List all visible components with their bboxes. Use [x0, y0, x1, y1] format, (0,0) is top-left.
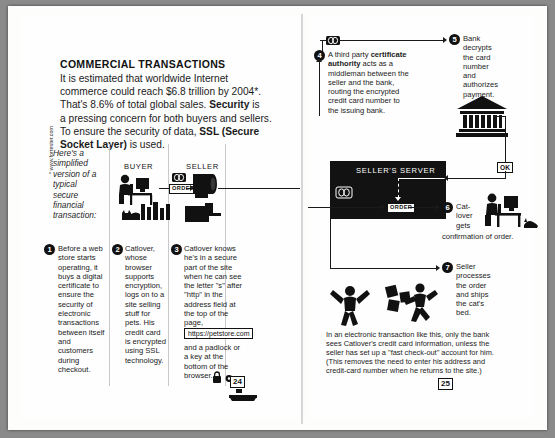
step-number-2: 2 — [112, 244, 123, 255]
dashed-connector-top — [398, 178, 450, 179]
footnote-line-1: In an electronic transaction like this, … — [326, 330, 489, 339]
intro-line-4: a pressing concern for both buyers and s… — [60, 113, 272, 124]
arrowhead-to-seller — [190, 185, 194, 191]
column-rule-2 — [168, 144, 169, 386]
connector-ca-left-stub — [320, 40, 327, 41]
step-4-text-a: A third party — [328, 50, 371, 59]
step-4-text-b: acts as a middleman between the seller a… — [328, 59, 409, 114]
connector-server-down-to-step7 — [330, 219, 331, 269]
footnote-line-4: (This removes the need to enter his addr… — [326, 357, 485, 366]
step-text-1: Before a web store starts operating, it … — [58, 244, 106, 374]
page-number-left: 24 — [230, 376, 245, 388]
arrowhead-to-bank — [443, 37, 447, 43]
connector-into-server-order — [308, 207, 382, 208]
footnote-line-5: credit-card number when he returns to th… — [326, 366, 482, 375]
address-bar-url[interactable]: https://petstore.com — [184, 328, 253, 339]
page-gutter — [301, 14, 303, 424]
step-number-6: 6 — [442, 202, 453, 213]
connector-bank-stub — [494, 116, 506, 117]
connector-to-step7 — [330, 268, 438, 269]
connector-ca-to-bank — [340, 40, 444, 41]
arrowhead-to-step6 — [436, 204, 440, 210]
connector-buyer-to-order — [159, 188, 169, 189]
step-number-3: 3 — [171, 244, 182, 255]
connector-server-to-ca — [319, 62, 320, 116]
running-courier-icon — [386, 282, 440, 326]
cat-and-fence-icon — [120, 202, 172, 222]
arrowhead-into-order — [381, 204, 385, 210]
intro-line-3b: is — [249, 99, 259, 110]
padlock-icon — [212, 371, 222, 383]
cd-icon-right — [326, 36, 340, 45]
page-number-right: 25 — [438, 378, 453, 390]
intro-term-ssl-1: SSL (Secure — [199, 126, 259, 137]
step-text-5: Bank decrypts the card number and author… — [463, 34, 503, 99]
connector-order-to-step6 — [408, 207, 438, 208]
intro-paragraph: It is estimated that worldwide Internet … — [60, 72, 296, 151]
step-text-3a: Catlover knows he's in a secure part of … — [184, 244, 246, 328]
arrowhead-to-step7 — [436, 265, 440, 271]
arrowhead-dashed-to-order — [395, 197, 401, 201]
diagram-caption: Here's a simplified version of a typical… — [53, 148, 103, 221]
intro-line-1: It is estimated that worldwide Internet — [60, 73, 228, 84]
monitor-base-icon — [229, 389, 257, 401]
step-number-1: 1 — [44, 244, 55, 255]
column-rule-1 — [109, 144, 110, 386]
intro-line-3a: That's 8.6% of total global sales. — [60, 99, 209, 110]
connector-seller-to-right-page — [218, 188, 300, 189]
step-text-2: Catlover, whose browser supports encrypt… — [125, 244, 167, 365]
arrowhead-ok-to-server — [444, 175, 448, 181]
intro-line-6b: is used. — [127, 139, 165, 150]
step-text-6-cont: confirmation of order. — [442, 232, 538, 241]
footnote-line-3: seller has set up a "fast check-out" acc… — [326, 348, 494, 357]
seller-label: SELLER — [186, 162, 219, 171]
arrowhead-to-ca — [316, 58, 322, 62]
sellers-server-label: SELLER'S SERVER — [356, 166, 435, 175]
celebrating-figure-icon — [330, 282, 370, 326]
footnote-paragraph: In an electronic transaction like this, … — [326, 330, 538, 375]
screenshot-root: * www.forrester.com COMMERCIAL TRANSACTI… — [0, 0, 555, 438]
step-text-7: Seller processes the order and ships the… — [456, 262, 500, 318]
connector-bank-to-ok — [505, 116, 506, 162]
footnote-line-2: sees Catlover's credit card information,… — [326, 339, 489, 348]
bank-building-icon — [456, 96, 508, 138]
step-number-5: 5 — [449, 34, 460, 45]
connector-ok-down — [505, 171, 506, 179]
dashed-connector-to-order — [398, 178, 399, 198]
buyer-label: BUYER — [124, 162, 153, 171]
catlover-desk-icon — [480, 192, 538, 232]
cd-icon-left — [172, 173, 186, 182]
seller-shape-icon — [183, 202, 223, 224]
connector-ok-to-server — [446, 178, 506, 179]
intro-line-5a: To ensure the security of data, — [60, 126, 199, 137]
cd-icon-server — [336, 187, 352, 198]
intro-term-security: Security — [209, 99, 249, 110]
page-title: COMMERCIAL TRANSACTIONS — [60, 58, 225, 70]
intro-line-2: commerce could reach $6.8 trillion by 20… — [60, 86, 261, 97]
step-text-4: A third party certificate authority acts… — [328, 50, 410, 115]
seller-server-icon-left — [193, 174, 219, 200]
step-text-6: Cat-lovergets — [456, 202, 482, 230]
book-spread: * www.forrester.com COMMERCIAL TRANSACTI… — [8, 6, 547, 430]
step-number-7: 7 — [442, 262, 453, 273]
